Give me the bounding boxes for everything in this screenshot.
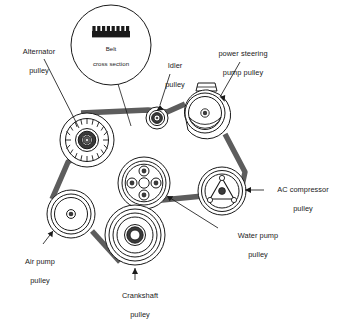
label-alternator-pulley: Alternator pulley bbox=[8, 38, 70, 84]
label-idler-line2: pulley bbox=[153, 80, 197, 89]
label-water-pump-pulley: Water pump pulley bbox=[222, 222, 294, 268]
belt-segment-top bbox=[81, 104, 185, 113]
label-power-steering-line2: pump pulley bbox=[201, 68, 285, 77]
inset-label-line1: Belt bbox=[82, 45, 140, 52]
water-pump-pulley bbox=[118, 157, 170, 209]
label-idler-line1: Idler bbox=[153, 61, 197, 70]
label-power-steering-line1: power steering bbox=[201, 49, 285, 58]
crankshaft-pulley bbox=[105, 205, 165, 265]
water-pump-center-hole bbox=[139, 178, 149, 188]
label-power-steering-pulley: power steering pump pulley bbox=[201, 40, 285, 86]
inset-leader-line bbox=[118, 84, 131, 126]
label-ac-compressor-pulley: AC compressor pulley bbox=[266, 176, 340, 222]
inset-label: Belt cross section bbox=[82, 38, 140, 75]
label-crankshaft-pulley: Crankshaft pulley bbox=[104, 282, 176, 323]
label-ac-line2: pulley bbox=[266, 204, 340, 213]
label-air-pump-line1: Air pump bbox=[11, 257, 69, 266]
label-alternator-line2: pulley bbox=[8, 66, 70, 75]
label-ac-line1: AC compressor bbox=[266, 185, 340, 194]
label-water-pump-line2: pulley bbox=[222, 250, 294, 259]
inset-label-line2: cross section bbox=[82, 60, 140, 67]
air-pump-pulley bbox=[47, 190, 95, 238]
label-air-pump-pulley: Air pump pulley bbox=[11, 248, 69, 294]
label-air-pump-line2: pulley bbox=[11, 276, 69, 285]
ac-compressor-pulley bbox=[198, 167, 246, 215]
label-alternator-line1: Alternator bbox=[8, 47, 70, 56]
alternator-pulley bbox=[60, 113, 114, 167]
label-water-pump-line1: Water pump bbox=[222, 231, 294, 240]
label-idler-pulley: Idler pulley bbox=[153, 52, 197, 98]
label-crankshaft-line2: pulley bbox=[104, 310, 176, 319]
label-crankshaft-line1: Crankshaft bbox=[104, 291, 176, 300]
